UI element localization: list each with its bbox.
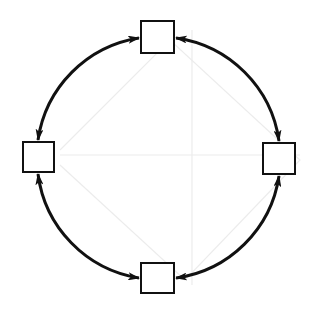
node-top bbox=[140, 20, 175, 54]
edge-left-top bbox=[38, 38, 139, 140]
node-left bbox=[22, 141, 55, 173]
edges bbox=[38, 38, 279, 278]
node-right bbox=[262, 142, 296, 175]
node-bottom bbox=[140, 262, 175, 294]
edge-bottom-left bbox=[38, 174, 139, 278]
